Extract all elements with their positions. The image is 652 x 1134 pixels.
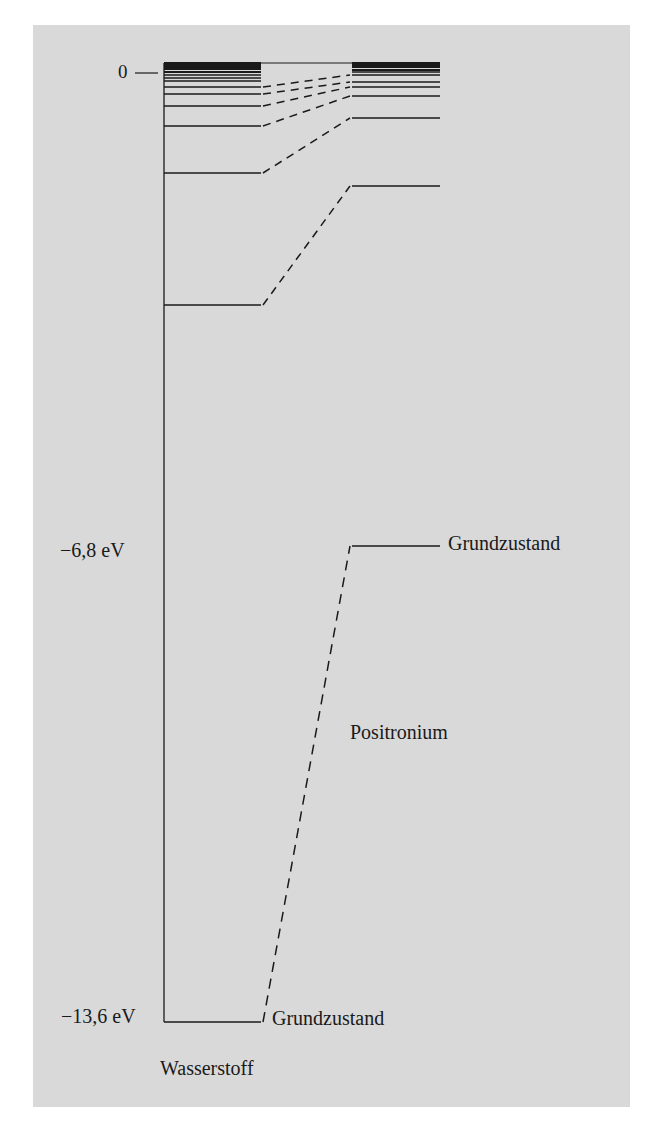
- axis-label-zero: 0: [118, 62, 128, 81]
- positronium-ground-state-label: Grundzustand: [448, 533, 560, 553]
- axis-label-minus-6-8-ev: −6,8 eV: [60, 540, 125, 560]
- connector-n3: [263, 118, 350, 173]
- energy-axis: [135, 63, 352, 1022]
- hydrogen-levels: [164, 62, 261, 1022]
- connector-n1: [263, 546, 350, 1022]
- hydrogen-ground-state-label: Grundzustand: [272, 1008, 384, 1028]
- connector-n2: [263, 186, 350, 305]
- level-connectors: [263, 75, 350, 1022]
- positronium-levels: [352, 62, 440, 546]
- connector-n5: [263, 87, 350, 106]
- energy-level-diagram: [0, 0, 652, 1134]
- axis-label-minus-13-6-ev: −13,6 eV: [61, 1006, 136, 1026]
- connector-n4: [263, 96, 350, 126]
- connector-n7: [263, 75, 350, 87]
- connector-n6: [263, 82, 350, 94]
- positronium-label: Positronium: [350, 722, 448, 742]
- hydrogen-label: Wasserstoff: [160, 1058, 254, 1078]
- positronium-continuum-band: [352, 62, 440, 66]
- hydrogen-continuum-band: [164, 62, 261, 66]
